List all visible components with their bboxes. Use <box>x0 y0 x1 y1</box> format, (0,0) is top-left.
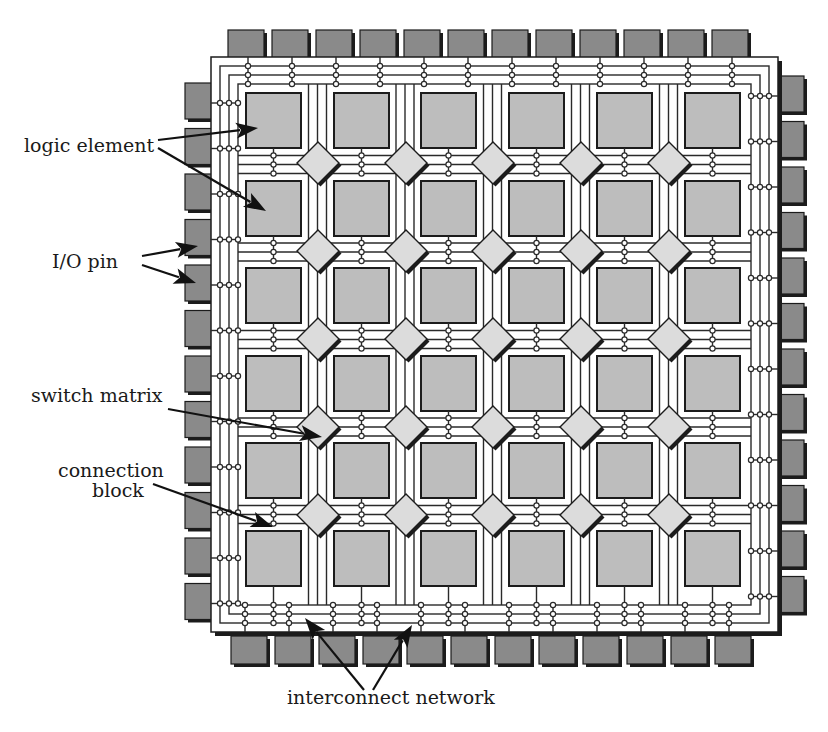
connection-point <box>729 81 734 86</box>
connection-point <box>374 602 379 607</box>
connection-point <box>766 93 771 98</box>
io-pin <box>712 30 748 58</box>
io-pin <box>185 83 212 119</box>
connection-block <box>359 512 364 517</box>
connection-block <box>446 611 451 616</box>
connection-point <box>217 191 222 196</box>
connection-block <box>446 328 451 333</box>
connection-point <box>685 63 690 68</box>
connection-block <box>710 240 715 245</box>
connection-block <box>622 620 627 625</box>
connection-point <box>757 366 762 371</box>
connection-point <box>235 555 240 560</box>
logic-element <box>597 181 652 236</box>
connection-point <box>462 611 467 616</box>
connection-point <box>289 63 294 68</box>
io-pin <box>316 30 352 58</box>
connection-point <box>748 548 753 553</box>
connection-point <box>226 373 231 378</box>
connection-point <box>748 93 753 98</box>
connection-block <box>710 153 715 158</box>
connection-point <box>757 412 762 417</box>
connection-block <box>710 503 715 508</box>
connection-block <box>359 602 364 607</box>
connection-block <box>534 611 539 616</box>
connection-point <box>333 63 338 68</box>
connection-point <box>509 81 514 86</box>
io-pin <box>451 636 487 664</box>
logic-element <box>421 93 476 148</box>
connection-point <box>594 620 599 625</box>
connection-point <box>757 93 762 98</box>
connection-block <box>622 415 627 420</box>
connection-point <box>748 321 753 326</box>
connection-point <box>766 275 771 280</box>
logic-element <box>421 531 476 586</box>
connection-point <box>242 611 247 616</box>
connection-point <box>465 63 470 68</box>
connection-block <box>446 503 451 508</box>
connection-block <box>271 346 276 351</box>
connection-block <box>446 521 451 526</box>
connection-point <box>748 139 753 144</box>
connection-block <box>710 433 715 438</box>
connection-point <box>506 620 511 625</box>
connection-point <box>286 602 291 607</box>
io-pin <box>580 30 616 58</box>
connection-block <box>271 249 276 254</box>
io-pin <box>404 30 440 58</box>
logic-element <box>421 268 476 323</box>
io-pin <box>624 30 660 58</box>
connection-point <box>330 602 335 607</box>
logic-element <box>334 443 389 498</box>
connection-block <box>446 512 451 517</box>
connection-point <box>377 72 382 77</box>
connection-block <box>622 602 627 607</box>
logic-element <box>685 531 740 586</box>
io-pin <box>627 636 663 664</box>
connection-point <box>509 63 514 68</box>
connection-point <box>726 620 731 625</box>
logic-element <box>246 268 301 323</box>
connection-point <box>757 275 762 280</box>
connection-point <box>553 63 558 68</box>
connection-point <box>465 72 470 77</box>
connection-block <box>534 415 539 420</box>
connection-point <box>217 510 222 515</box>
connection-block <box>622 240 627 245</box>
logic-element <box>685 443 740 498</box>
connection-point <box>729 72 734 77</box>
connection-point <box>245 63 250 68</box>
io-pin <box>448 30 484 58</box>
connection-point <box>226 328 231 333</box>
connection-point <box>286 620 291 625</box>
connection-point <box>757 594 762 599</box>
connection-point <box>682 620 687 625</box>
connection-block <box>710 249 715 254</box>
connection-block <box>710 424 715 429</box>
connection-point <box>462 620 467 625</box>
connection-block <box>534 240 539 245</box>
connection-block <box>710 512 715 517</box>
connection-block <box>710 258 715 263</box>
connection-point <box>377 81 382 86</box>
connection-block <box>446 620 451 625</box>
connection-point <box>242 620 247 625</box>
connection-point <box>594 611 599 616</box>
connection-point <box>217 601 222 606</box>
logic-element <box>685 268 740 323</box>
connection-point <box>757 503 762 508</box>
connection-block <box>359 240 364 245</box>
label-io-pin: I/O pin <box>52 250 118 272</box>
connection-point <box>235 373 240 378</box>
connection-block <box>271 620 276 625</box>
connection-block <box>710 521 715 526</box>
io-pin <box>275 636 311 664</box>
connection-point <box>217 100 222 105</box>
logic-element <box>421 181 476 236</box>
connection-point <box>421 63 426 68</box>
connection-point <box>766 366 771 371</box>
connection-block <box>622 153 627 158</box>
connection-point <box>235 328 240 333</box>
connection-block <box>534 346 539 351</box>
